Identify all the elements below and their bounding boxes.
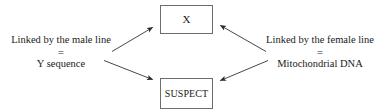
female-equals-sign: =	[260, 47, 380, 59]
male-line-text: Linked by the male line	[2, 34, 120, 47]
female-line-annotation: Linked by the female line = Mitochondria…	[260, 34, 380, 71]
male-equals-sign: =	[2, 47, 120, 59]
suspect-label: SUSPECT	[165, 89, 209, 99]
male-line-annotation: Linked by the male line = Y sequence	[2, 34, 120, 71]
y-sequence-text: Y sequence	[2, 58, 120, 71]
suspect-box: SUSPECT	[160, 78, 213, 109]
female-line-text: Linked by the female line	[260, 34, 380, 47]
unknown-person-box: X	[160, 5, 213, 34]
unknown-person-label: X	[182, 14, 190, 25]
mitochondrial-dna-text: Mitochondrial DNA	[260, 58, 380, 71]
lineage-linkage-diagram: X SUSPECT Linked by the male line = Y se…	[0, 0, 380, 112]
